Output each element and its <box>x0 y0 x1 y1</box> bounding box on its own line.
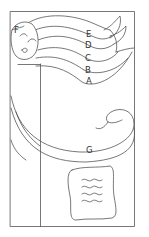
label-d: D <box>85 40 92 50</box>
label-e: E <box>86 29 91 39</box>
pattern-diagram: A B C D E F G <box>0 0 149 237</box>
swirl-g <box>11 96 135 162</box>
label-a: A <box>86 76 92 86</box>
label-c: C <box>85 53 91 63</box>
label-f: F <box>14 25 19 35</box>
parchment-scroll <box>68 166 116 220</box>
label-b: B <box>85 65 91 75</box>
label-g: G <box>86 145 93 155</box>
